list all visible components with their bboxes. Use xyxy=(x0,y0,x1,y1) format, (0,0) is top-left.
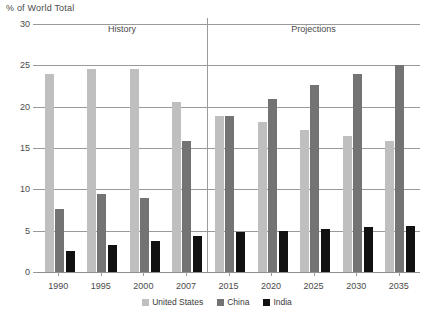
legend-item-india[interactable]: India xyxy=(263,297,291,307)
legend-label: China xyxy=(227,297,249,307)
bar-china-2000 xyxy=(140,198,149,272)
section-label-history: History xyxy=(108,24,136,34)
bar-group-1990 xyxy=(43,24,76,272)
legend-swatch-icon xyxy=(263,299,270,306)
x-tick-label-2035: 2035 xyxy=(389,281,409,291)
y-tick-label-30: 30 xyxy=(4,19,30,29)
x-tick-label-1990: 1990 xyxy=(48,281,68,291)
chart-container: % of World Total 051015202530 1990199520… xyxy=(0,0,434,318)
y-tick-label-20: 20 xyxy=(4,102,30,112)
y-tick-label-5: 5 xyxy=(4,226,30,236)
bar-group-2000 xyxy=(128,24,161,272)
bar-china-1995 xyxy=(97,194,106,272)
history-projection-divider xyxy=(207,18,208,272)
x-tick-mark-2035 xyxy=(399,272,400,276)
legend-swatch-icon xyxy=(142,299,149,306)
x-tick-mark-2015 xyxy=(229,272,230,276)
bar-united-states-1995 xyxy=(87,69,96,272)
bar-group-2015 xyxy=(213,24,246,272)
x-tick-label-1995: 1995 xyxy=(91,281,111,291)
x-tick-label-2007: 2007 xyxy=(176,281,196,291)
bar-united-states-1990 xyxy=(45,74,54,272)
y-tick-label-25: 25 xyxy=(4,60,30,70)
legend-label: India xyxy=(273,297,291,307)
bar-united-states-2015 xyxy=(215,116,224,272)
bar-united-states-2020 xyxy=(258,122,267,272)
bar-china-2030 xyxy=(353,74,362,272)
bar-india-1990 xyxy=(66,251,75,272)
legend-swatch-icon xyxy=(217,299,224,306)
legend-item-china[interactable]: China xyxy=(217,297,249,307)
bar-india-2030 xyxy=(364,227,373,272)
x-tick-label-2025: 2025 xyxy=(304,281,324,291)
bar-united-states-2030 xyxy=(343,136,352,272)
bar-india-2020 xyxy=(279,231,288,272)
bar-india-2025 xyxy=(321,229,330,272)
legend-label: United States xyxy=(152,297,203,307)
bar-china-2015 xyxy=(225,116,234,272)
bar-group-2025 xyxy=(298,24,331,272)
bar-india-2035 xyxy=(406,226,415,272)
bar-united-states-2000 xyxy=(130,69,139,272)
x-tick-mark-1990 xyxy=(58,272,59,276)
plot-area: 051015202530 199019952000200720152020202… xyxy=(37,24,420,272)
bar-group-2035 xyxy=(383,24,416,272)
x-tick-label-2000: 2000 xyxy=(133,281,153,291)
y-tick-mark-0 xyxy=(33,272,37,273)
section-label-projections: Projections xyxy=(291,24,336,34)
bar-china-2020 xyxy=(268,99,277,272)
bar-group-2020 xyxy=(256,24,289,272)
x-tick-mark-2020 xyxy=(271,272,272,276)
bar-china-2007 xyxy=(182,141,191,272)
x-tick-mark-2025 xyxy=(314,272,315,276)
bar-group-2007 xyxy=(170,24,203,272)
bar-india-2007 xyxy=(193,236,202,272)
bar-group-2030 xyxy=(341,24,374,272)
y-axis-title: % of World Total xyxy=(6,3,74,13)
bar-series-layer: 199019952000200720152020202520302035 xyxy=(37,24,420,272)
chart-legend: United StatesChinaIndia xyxy=(0,297,434,307)
bar-united-states-2025 xyxy=(300,130,309,272)
x-tick-mark-2030 xyxy=(356,272,357,276)
x-tick-label-2020: 2020 xyxy=(261,281,281,291)
y-tick-label-10: 10 xyxy=(4,184,30,194)
bar-india-2000 xyxy=(151,241,160,272)
bar-group-1995 xyxy=(85,24,118,272)
bar-united-states-2035 xyxy=(385,141,394,272)
legend-item-united-states[interactable]: United States xyxy=(142,297,203,307)
bar-china-2035 xyxy=(395,65,404,272)
bar-china-1990 xyxy=(55,209,64,272)
bar-india-2015 xyxy=(236,232,245,272)
bar-india-1995 xyxy=(108,245,117,272)
x-tick-mark-2007 xyxy=(186,272,187,276)
x-tick-mark-2000 xyxy=(143,272,144,276)
bar-united-states-2007 xyxy=(172,102,181,272)
x-tick-mark-1995 xyxy=(101,272,102,276)
y-tick-label-0: 0 xyxy=(4,267,30,277)
x-tick-label-2030: 2030 xyxy=(346,281,366,291)
x-tick-label-2015: 2015 xyxy=(218,281,238,291)
y-tick-label-15: 15 xyxy=(4,143,30,153)
bar-china-2025 xyxy=(310,85,319,272)
